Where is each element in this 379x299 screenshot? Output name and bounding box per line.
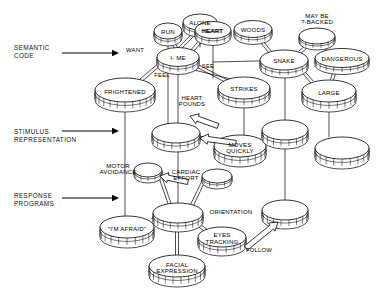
edge-label-line: FOLLOW bbox=[246, 247, 272, 253]
level-label-line1: SEMANTIC bbox=[14, 44, 50, 52]
node-run bbox=[154, 23, 182, 46]
edge-label-line: WANT bbox=[126, 47, 144, 53]
level-label-line1: RESPONSE bbox=[14, 192, 54, 200]
level-arrow-response-programs bbox=[62, 195, 119, 201]
node-stim-mid bbox=[262, 120, 308, 149]
node-dangerous bbox=[315, 49, 369, 75]
cylinder-top[interactable] bbox=[153, 203, 203, 223]
network-graphics bbox=[0, 0, 379, 299]
node-frightened bbox=[95, 78, 155, 112]
node-snake bbox=[260, 50, 308, 78]
cylinder-top[interactable] bbox=[262, 120, 308, 140]
node-large bbox=[302, 80, 356, 112]
node-motor-avoidance bbox=[134, 163, 162, 183]
cylinder-top[interactable] bbox=[262, 200, 308, 220]
cylinder-top[interactable] bbox=[315, 137, 369, 159]
node-facial-expression bbox=[149, 255, 205, 287]
cylinder-top[interactable] bbox=[134, 163, 162, 177]
cylinder-top[interactable] bbox=[302, 80, 356, 102]
cylinder-top[interactable] bbox=[100, 216, 154, 238]
cylinder-top[interactable] bbox=[152, 123, 200, 143]
level-label-line2: PROGRAMS bbox=[14, 200, 54, 208]
diagram-canvas: SEMANTICCODESTIMULUSREPRESENTATIONRESPON… bbox=[0, 0, 379, 299]
cylinder-top[interactable] bbox=[315, 49, 369, 68]
node-orientation bbox=[153, 203, 203, 232]
cylinder-top[interactable] bbox=[154, 23, 182, 39]
cylinder-top[interactable] bbox=[195, 22, 231, 39]
level-label-line1: STIMULUS bbox=[14, 128, 77, 136]
edge-label-line: POUNDS bbox=[179, 101, 205, 107]
level-label-line2: REPRESENTATION bbox=[14, 136, 77, 144]
node-cardiac-effort bbox=[202, 169, 232, 189]
edge-label-heart-pounds: HEARTPOUNDS bbox=[179, 95, 205, 108]
node-stim-right bbox=[315, 137, 369, 169]
node-woods bbox=[234, 21, 272, 45]
cylinder-top[interactable] bbox=[299, 28, 335, 44]
cylinder-top[interactable] bbox=[198, 227, 246, 247]
cylinder-top[interactable] bbox=[260, 50, 308, 70]
edge-label-line: FEEL bbox=[154, 72, 170, 78]
level-arrow-semantic-code bbox=[62, 50, 119, 56]
cylinder-top[interactable] bbox=[157, 48, 199, 67]
nodes bbox=[95, 14, 369, 287]
level-label-response-programs: RESPONSEPROGRAMS bbox=[14, 192, 54, 208]
cylinder-top[interactable] bbox=[218, 77, 270, 99]
cylinder-top[interactable] bbox=[234, 21, 272, 38]
level-label-line2: CODE bbox=[14, 52, 50, 60]
cylinder-top[interactable] bbox=[95, 78, 155, 102]
node-may-be-backed bbox=[299, 28, 335, 50]
edge-label-feel: FEEL bbox=[154, 72, 170, 78]
level-label-stimulus-representation: STIMULUSREPRESENTATION bbox=[14, 128, 77, 144]
node-strikes bbox=[218, 77, 270, 108]
edge-label-want: WANT bbox=[126, 47, 144, 53]
node-heart-top bbox=[195, 22, 231, 46]
node-im-afraid bbox=[100, 216, 154, 248]
cylinder-top[interactable] bbox=[202, 169, 232, 183]
edge-label-see: SEE bbox=[202, 63, 214, 69]
level-label-semantic-code: SEMANTICCODE bbox=[14, 44, 50, 60]
node-i-me bbox=[157, 48, 199, 75]
edge-label-follow: FOLLOW bbox=[246, 247, 272, 253]
node-stim-left bbox=[152, 123, 200, 152]
node-resp-right bbox=[262, 200, 308, 229]
node-eyes-tracking bbox=[198, 227, 246, 256]
edge-label-line: SEE bbox=[202, 63, 214, 69]
cylinder-top[interactable] bbox=[149, 255, 205, 277]
